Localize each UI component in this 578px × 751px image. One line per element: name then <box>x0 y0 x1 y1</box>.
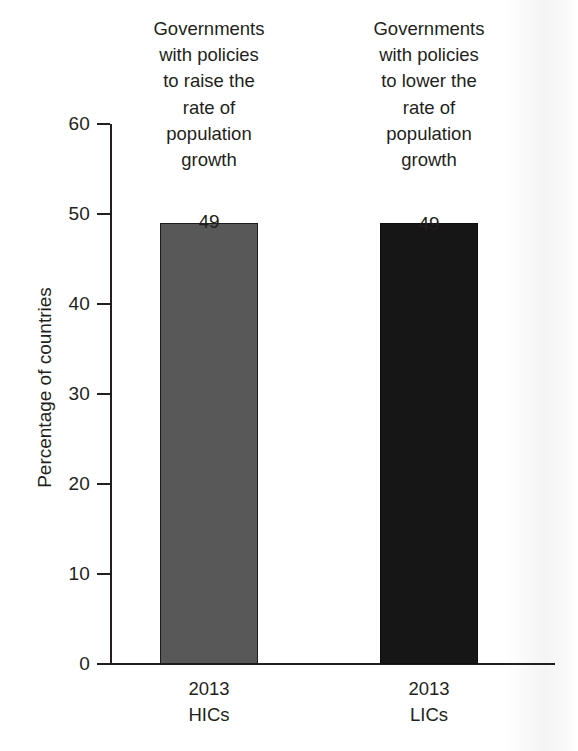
column-header-hics-line6: growth <box>181 149 237 170</box>
column-header-lics: Governments with policies to lower the r… <box>339 16 519 173</box>
y-tick-label-0: 0 <box>20 654 90 673</box>
y-tick-20 <box>97 483 110 485</box>
column-header-hics-line5: population <box>166 123 251 144</box>
category-label-hics-year: 2013 <box>188 678 229 699</box>
y-tick-50 <box>97 213 110 215</box>
y-axis-line <box>110 124 112 665</box>
column-header-lics-line6: growth <box>401 149 457 170</box>
column-header-hics-line3: to raise the <box>163 70 255 91</box>
column-header-hics: Governments with policies to raise the r… <box>119 16 299 173</box>
column-header-lics-line5: population <box>386 123 471 144</box>
y-tick-label-20: 20 <box>20 474 90 493</box>
y-tick-30 <box>97 393 110 395</box>
category-label-hics: 2013 HICs <box>119 676 299 728</box>
y-tick-60 <box>97 123 110 125</box>
bar-lics <box>380 223 478 664</box>
bar-hics <box>160 223 258 664</box>
column-header-hics-line1: Governments <box>153 18 264 39</box>
y-tick-label-30: 30 <box>20 384 90 403</box>
category-label-lics-year: 2013 <box>408 678 449 699</box>
bar-chart: Governments with policies to raise the r… <box>0 0 578 751</box>
column-header-hics-line4: rate of <box>183 97 235 118</box>
y-tick-label-50: 50 <box>20 204 90 223</box>
column-header-lics-line1: Governments <box>373 18 484 39</box>
y-tick-0 <box>97 663 110 665</box>
y-tick-40 <box>97 303 110 305</box>
category-label-lics-group: LICs <box>339 702 519 728</box>
column-header-hics-line2: with policies <box>159 44 259 65</box>
bar-value-lics: 49 <box>380 214 478 233</box>
column-header-lics-line4: rate of <box>403 97 455 118</box>
column-header-lics-line3: to lower the <box>381 70 477 91</box>
y-tick-label-40: 40 <box>20 294 90 313</box>
y-tick-label-60: 60 <box>20 114 90 133</box>
category-label-lics: 2013 LICs <box>339 676 519 728</box>
bar-value-hics: 49 <box>160 212 258 231</box>
category-label-hics-group: HICs <box>119 702 299 728</box>
y-tick-10 <box>97 573 110 575</box>
y-tick-label-10: 10 <box>20 564 90 583</box>
column-header-lics-line2: with policies <box>379 44 479 65</box>
